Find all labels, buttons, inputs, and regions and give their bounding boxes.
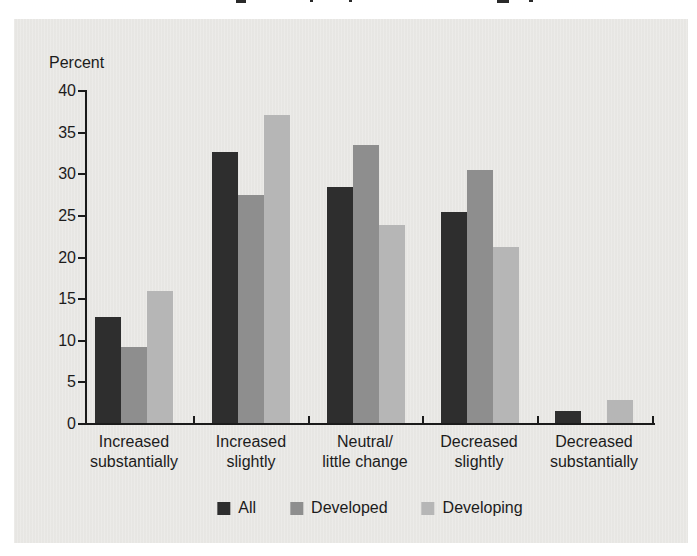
chart-panel: Percent 0510152025303540Increasedsubstan… <box>14 19 688 543</box>
category-label-line: slightly <box>191 452 311 472</box>
category-label-line: substantially <box>74 452 194 472</box>
category-label-line: Increased <box>191 432 311 452</box>
bar-developed-1 <box>238 195 264 423</box>
bar-all-1 <box>212 152 238 423</box>
cropped-caption-fragment <box>349 0 352 2</box>
category-label-line: substantially <box>534 452 654 472</box>
y-tick <box>78 173 85 175</box>
cropped-caption-fragment <box>236 0 246 3</box>
category-label: Neutral/little change <box>305 432 425 472</box>
category-label-line: Increased <box>74 432 194 452</box>
y-tick-label: 15 <box>30 290 76 308</box>
category-label-line: little change <box>305 452 425 472</box>
category-label-line: Decreased <box>534 432 654 452</box>
y-tick <box>78 298 85 300</box>
legend: AllDevelopedDeveloping <box>217 499 522 517</box>
cropped-caption-fragment <box>310 0 313 2</box>
x-tick <box>193 416 195 423</box>
y-tick-label: 25 <box>30 207 76 225</box>
y-tick-label: 5 <box>30 373 76 391</box>
bar-all-0 <box>95 317 121 423</box>
legend-swatch <box>422 502 435 515</box>
y-axis-line <box>85 90 87 425</box>
legend-item-developing: Developing <box>422 499 523 517</box>
bar-developing-1 <box>264 115 290 423</box>
y-tick <box>78 423 85 425</box>
x-axis-line <box>85 423 655 425</box>
y-tick-label: 20 <box>30 249 76 267</box>
bar-developing-0 <box>147 291 173 423</box>
category-label: Decreasedsubstantially <box>534 432 654 472</box>
category-label-line: slightly <box>419 452 539 472</box>
bar-developed-2 <box>353 145 379 423</box>
bar-developing-2 <box>379 225 405 423</box>
legend-item-developed: Developed <box>290 499 388 517</box>
x-tick <box>652 416 654 423</box>
bar-all-3 <box>441 212 467 423</box>
legend-swatch <box>290 502 303 515</box>
y-tick-label: 30 <box>30 165 76 183</box>
y-tick-label: 0 <box>30 415 76 433</box>
bar-developed-0 <box>121 347 147 423</box>
bar-developed-3 <box>467 170 493 423</box>
y-tick-label: 10 <box>30 332 76 350</box>
bar-developing-4 <box>607 400 633 423</box>
y-axis-title: Percent <box>49 54 104 72</box>
y-tick-label: 40 <box>30 82 76 100</box>
y-tick <box>78 257 85 259</box>
legend-label: Developing <box>443 499 523 517</box>
bar-all-2 <box>327 187 353 423</box>
cropped-caption-fragment <box>497 0 509 3</box>
y-tick <box>78 132 85 134</box>
legend-label: All <box>238 499 256 517</box>
category-label: Increasedsubstantially <box>74 432 194 472</box>
y-tick <box>78 381 85 383</box>
x-tick <box>308 416 310 423</box>
legend-label: Developed <box>311 499 388 517</box>
legend-item-all: All <box>217 499 256 517</box>
y-tick <box>78 340 85 342</box>
category-label-line: Neutral/ <box>305 432 425 452</box>
legend-swatch <box>217 502 230 515</box>
category-label: Decreasedslightly <box>419 432 539 472</box>
y-tick <box>78 90 85 92</box>
page: Percent 0510152025303540Increasedsubstan… <box>0 0 697 556</box>
bar-all-4 <box>555 411 581 423</box>
y-tick-label: 35 <box>30 124 76 142</box>
y-tick <box>78 215 85 217</box>
x-tick <box>537 416 539 423</box>
cropped-caption-fragment <box>529 0 533 2</box>
bar-developing-3 <box>493 247 519 423</box>
x-tick <box>422 416 424 423</box>
category-label: Increasedslightly <box>191 432 311 472</box>
category-label-line: Decreased <box>419 432 539 452</box>
